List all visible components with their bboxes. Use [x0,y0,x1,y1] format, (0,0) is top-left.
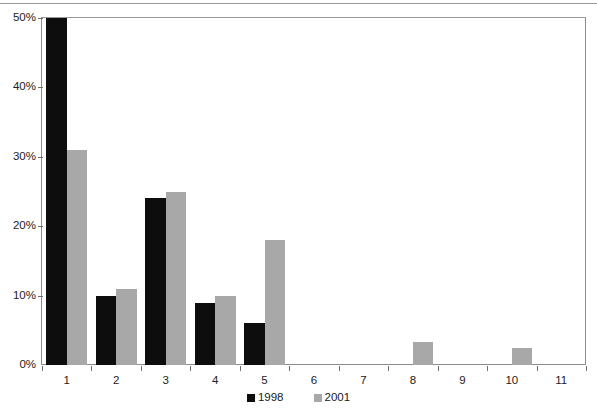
y-axis-tick-mark [38,87,43,88]
x-axis-tick-label: 1 [42,374,91,386]
x-axis-tick-label: 9 [438,374,487,386]
x-axis-tick-mark [537,366,538,371]
x-axis-tick-mark [91,366,92,371]
x-axis-tick-label: 8 [388,374,437,386]
y-axis-tick-mark [38,157,43,158]
x-axis-tick-mark [438,366,439,371]
bar-chart: 0%10%20%30%40%50% 1234567891011 19982001 [0,0,597,419]
x-axis-tick-label: 5 [240,374,289,386]
x-axis-tick-mark [388,366,389,371]
x-axis-tick-label: 6 [289,374,338,386]
x-axis-tick-mark [190,366,191,371]
chart-legend: 19982001 [0,392,597,403]
x-axis-tick-label: 7 [339,374,388,386]
x-axis-tick-mark [289,366,290,371]
legend-swatch-icon [314,394,322,402]
x-axis-tick-label: 3 [141,374,190,386]
x-axis-tick-label: 2 [91,374,140,386]
y-axis-tick-mark [38,226,43,227]
x-axis-tick-mark [42,366,43,371]
legend-item-2001[interactable]: 2001 [314,392,351,403]
x-axis-tick-label: 11 [537,374,586,386]
y-axis-tick-mark [38,18,43,19]
x-axis-tick-label: 10 [487,374,536,386]
x-axis-tick-label: 4 [190,374,239,386]
x-axis: 1234567891011 [0,0,597,419]
legend-item-1998[interactable]: 1998 [247,392,284,403]
legend-label: 2001 [325,392,351,403]
x-axis-tick-mark [141,366,142,371]
legend-swatch-icon [247,394,255,402]
y-axis-tick-mark [38,296,43,297]
x-axis-tick-mark [487,366,488,371]
x-axis-tick-mark [586,366,587,371]
x-axis-tick-mark [339,366,340,371]
legend-label: 1998 [258,392,284,403]
x-axis-tick-mark [240,366,241,371]
